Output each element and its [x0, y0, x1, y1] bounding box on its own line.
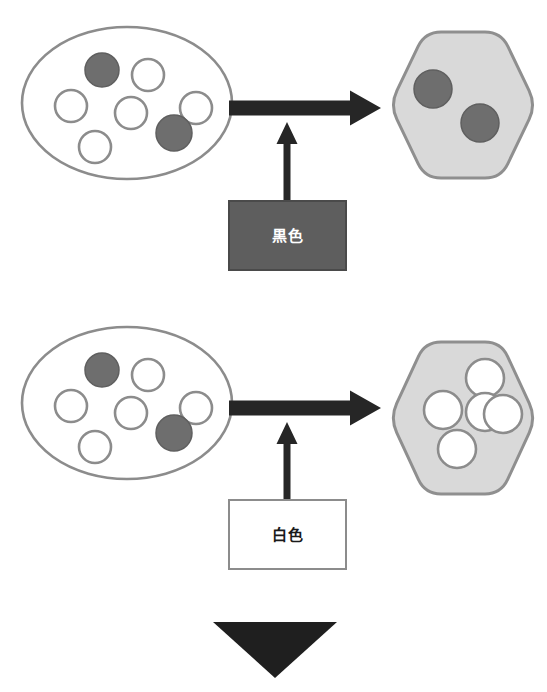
hollow-particle-1	[424, 391, 462, 429]
hollow-particle-5	[79, 431, 111, 463]
filled-particle-0	[85, 353, 119, 387]
filled-particle-0	[85, 53, 119, 87]
white-color-agent-label: 白色	[272, 527, 303, 542]
hollow-particle-5	[79, 131, 111, 163]
filled-particle-6	[156, 115, 192, 151]
diagram-row-2	[22, 327, 533, 500]
up-arrow-icon-2	[277, 422, 298, 500]
filled-particle-6	[156, 415, 192, 451]
hollow-particle-1	[132, 359, 164, 391]
hollow-particle-4	[438, 430, 476, 468]
hollow-particle-3	[484, 395, 522, 433]
black-color-agent-box[interactable]: 黒色	[228, 200, 347, 271]
hollow-particle-2	[55, 90, 87, 122]
right-arrow-icon-2	[229, 391, 381, 426]
white-color-agent-box[interactable]: 白色	[228, 499, 347, 570]
black-color-agent-label: 黒色	[272, 228, 303, 243]
filled-particle-1	[461, 104, 499, 142]
up-arrow-icon-1	[277, 122, 298, 201]
hollow-particle-3	[115, 97, 147, 129]
diagram-canvas: 黒色 白色	[0, 0, 547, 692]
target-hexagon-1	[393, 32, 532, 178]
diagram-row-1	[22, 27, 533, 201]
hollow-particle-2	[55, 390, 87, 422]
down-arrow-icon	[213, 622, 337, 678]
hollow-particle-1	[132, 59, 164, 91]
hollow-particle-0	[466, 359, 504, 397]
right-arrow-icon-1	[229, 91, 381, 126]
diagram-shapes-layer	[0, 0, 547, 692]
filled-particle-0	[414, 70, 452, 108]
hollow-particle-3	[115, 397, 147, 429]
